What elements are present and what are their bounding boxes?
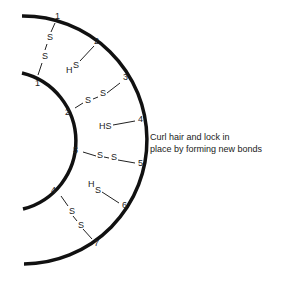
- bond4-hs: HS: [99, 122, 112, 131]
- caption: Curl hair and lock in place by forming n…: [150, 131, 262, 155]
- outer-strand-arc: [22, 16, 147, 264]
- caption-line-2: place by forming new bonds: [150, 143, 262, 155]
- outer-number-4: 4: [138, 115, 143, 124]
- bond1-s-lower: S: [42, 52, 48, 61]
- outer-number-6: 6: [122, 201, 127, 210]
- inner-number-2: 2: [65, 108, 70, 117]
- bond1-s-upper: S: [47, 33, 53, 42]
- bond6-s: S: [95, 186, 101, 195]
- inner-number-3: 3: [73, 146, 78, 155]
- inner-number-4: 4: [51, 186, 56, 195]
- outer-number-2: 2: [94, 37, 99, 46]
- bond5-s-right: S: [111, 153, 117, 162]
- inner-strand-arc: [22, 73, 76, 209]
- outer-number-5: 5: [138, 159, 143, 168]
- bond2-h: H: [66, 66, 73, 75]
- bond3-s-left: S: [85, 96, 91, 105]
- bond6-h: H: [88, 180, 95, 189]
- bond7-s-lower: S: [78, 221, 84, 230]
- bond2-s: S: [73, 61, 79, 70]
- bond3-s-right: S: [100, 89, 106, 98]
- caption-line-1: Curl hair and lock in: [150, 131, 262, 143]
- outer-number-1: 1: [55, 12, 60, 21]
- inner-number-1: 1: [35, 79, 40, 88]
- bond5-s-left: S: [97, 151, 103, 160]
- outer-number-3: 3: [123, 73, 128, 82]
- bond7-s-upper: S: [69, 207, 75, 216]
- outer-number-7: 7: [94, 239, 99, 248]
